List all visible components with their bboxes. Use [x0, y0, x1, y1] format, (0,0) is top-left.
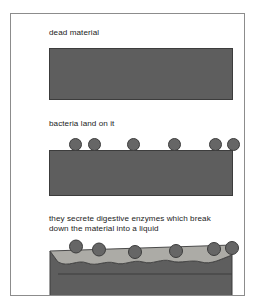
- figure-frame: dead material bacteria land on it they s…: [10, 13, 245, 296]
- bacterium: [129, 246, 142, 259]
- colonised-material-block: [49, 150, 233, 196]
- bacterium: [69, 138, 82, 151]
- bacterium: [93, 243, 106, 256]
- panel-2-caption: bacteria land on it: [49, 119, 114, 129]
- panel-1-caption: dead material: [49, 28, 99, 38]
- panel-3-stage: [49, 242, 233, 296]
- dead-material-block: [49, 48, 233, 100]
- bacterium: [227, 138, 240, 151]
- bacterium: [127, 138, 140, 151]
- bacterium: [208, 243, 221, 256]
- bacterium: [209, 138, 222, 151]
- panel-3-caption: they secrete digestive enzymes which bre…: [49, 214, 211, 233]
- bacterium: [170, 245, 183, 258]
- bacterium: [168, 138, 181, 151]
- bacterium: [88, 138, 101, 151]
- bacterium: [226, 242, 239, 255]
- bacterium: [70, 240, 83, 253]
- decomposition-diagram: dead material bacteria land on it they s…: [0, 0, 271, 307]
